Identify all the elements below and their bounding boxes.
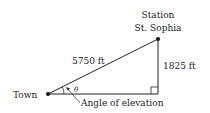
angle-caption: Angle of elevation — [80, 98, 164, 108]
vertical-side-label: 1825 ft — [163, 61, 196, 71]
station-point — [156, 37, 160, 41]
hypotenuse-line — [48, 39, 158, 94]
town-label: Town — [13, 90, 37, 100]
hypotenuse-label: 5750 ft — [72, 56, 105, 66]
angle-symbol: θ — [74, 86, 79, 94]
angle-pointer-arrowhead — [66, 87, 70, 91]
triangle-diagram: Station St. Sophia 5750 ft 1825 ft Town … — [0, 0, 210, 113]
station-label-line2: St. Sophia — [135, 23, 183, 33]
angle-arc — [62, 87, 64, 94]
station-label-line1: Station — [142, 10, 175, 20]
town-point — [46, 92, 50, 96]
right-angle-marker — [151, 87, 158, 94]
